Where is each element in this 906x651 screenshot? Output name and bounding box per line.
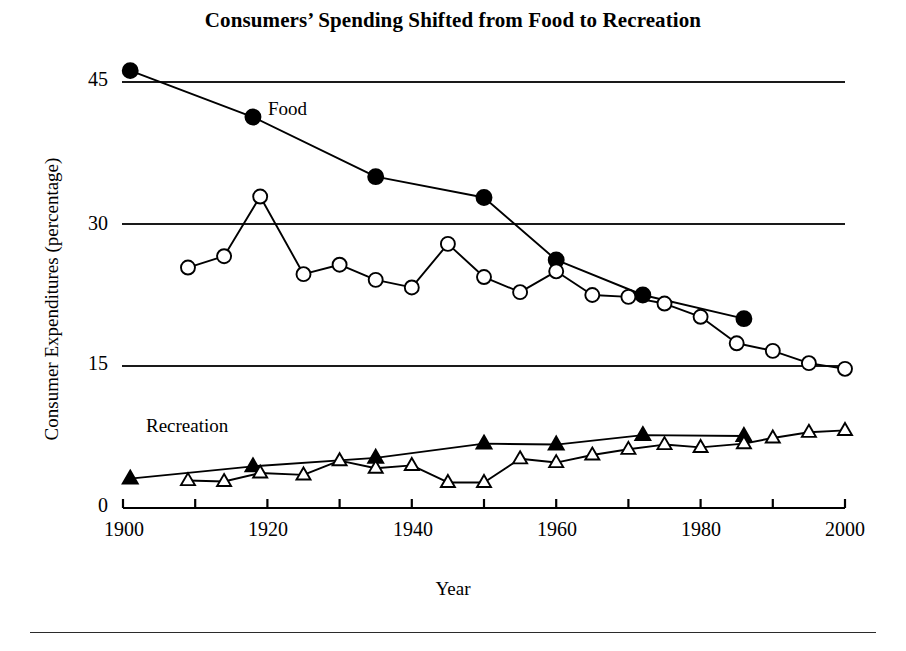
marker-open-circle-12 xyxy=(621,290,635,304)
figure-container: Consumers’ Spending Shifted from Food to… xyxy=(0,0,906,651)
series-line-1 xyxy=(188,197,845,369)
marker-open-circle-7 xyxy=(441,237,455,251)
marker-filled-circle-1 xyxy=(245,110,260,125)
marker-open-circle-1 xyxy=(217,249,231,263)
marker-open-circle-18 xyxy=(838,362,852,376)
series-2 xyxy=(123,427,752,484)
plot-area xyxy=(0,0,906,651)
series-3 xyxy=(181,423,852,487)
marker-filled-triangle-5 xyxy=(635,427,650,440)
marker-filled-circle-2 xyxy=(368,169,383,184)
bottom-rule xyxy=(30,632,876,633)
axes xyxy=(123,499,845,508)
marker-open-circle-11 xyxy=(585,288,599,302)
marker-filled-circle-3 xyxy=(477,190,492,205)
marker-open-circle-13 xyxy=(658,297,672,311)
series-1 xyxy=(181,190,852,376)
gridlines xyxy=(122,82,845,366)
marker-open-circle-4 xyxy=(333,258,347,272)
series-line-0 xyxy=(130,71,744,319)
series-line-2 xyxy=(130,435,744,479)
marker-open-circle-9 xyxy=(513,285,527,299)
marker-open-triangle-9 xyxy=(513,451,527,463)
marker-open-triangle-8 xyxy=(477,475,491,487)
marker-filled-triangle-3 xyxy=(477,436,492,449)
marker-open-circle-10 xyxy=(549,264,563,278)
marker-open-triangle-17 xyxy=(802,425,816,437)
marker-open-triangle-0 xyxy=(181,473,195,485)
marker-open-circle-15 xyxy=(730,336,744,350)
marker-open-circle-5 xyxy=(369,273,383,287)
marker-open-circle-8 xyxy=(477,270,491,284)
marker-open-circle-14 xyxy=(694,310,708,324)
marker-open-circle-16 xyxy=(766,344,780,358)
series-0 xyxy=(123,63,752,326)
series-layer xyxy=(123,63,852,487)
marker-filled-triangle-0 xyxy=(123,471,138,484)
marker-open-circle-6 xyxy=(405,280,419,294)
marker-open-triangle-6 xyxy=(405,458,419,470)
marker-filled-circle-6 xyxy=(736,311,751,326)
marker-filled-circle-0 xyxy=(123,63,138,78)
marker-open-triangle-14 xyxy=(694,440,708,452)
marker-open-circle-3 xyxy=(297,267,311,281)
marker-filled-triangle-4 xyxy=(549,437,564,450)
marker-open-circle-2 xyxy=(253,190,267,204)
marker-open-triangle-18 xyxy=(838,423,852,435)
marker-open-circle-17 xyxy=(802,356,816,370)
marker-open-circle-0 xyxy=(181,261,195,275)
marker-open-triangle-13 xyxy=(658,437,672,449)
